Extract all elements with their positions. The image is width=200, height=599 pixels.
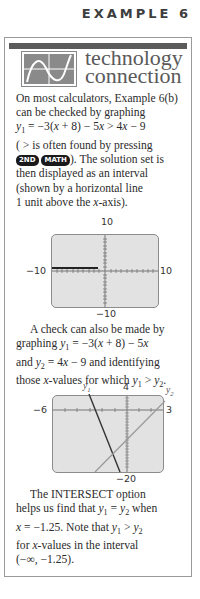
calculator-graph-1: 10 −10 10 −10 xyxy=(5,216,193,316)
graph2-xmax: 3 xyxy=(166,404,172,415)
graphing-calculator-icon xyxy=(21,51,77,87)
graph1-xmin: −10 xyxy=(26,265,46,276)
graph2-xmin: −6 xyxy=(33,404,47,415)
technology-connection-box: technology connection On most calculator… xyxy=(4,37,192,577)
paragraph-intersect: The INTERSECT option helps us find that … xyxy=(16,488,194,568)
graph1-ymin: −10 xyxy=(96,308,116,319)
key-math: MATH xyxy=(41,155,69,166)
calculator-graph-2: y1 4 y2 −6 3 xyxy=(5,381,193,481)
section-title: technology connection xyxy=(85,49,183,85)
example-heading: EXAMPLE 6 xyxy=(82,6,191,21)
graph1-xmax: 10 xyxy=(160,265,172,276)
paragraph-calculator-check: On most calculators, Example 6(b) can be… xyxy=(16,92,194,210)
key-2nd: 2ND xyxy=(16,155,39,166)
graph2-ymin: −20 xyxy=(116,473,136,484)
